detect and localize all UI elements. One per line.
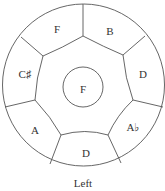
note-label-bottom: D: [82, 147, 90, 159]
spoke-bottom-left: [50, 135, 61, 164]
note-label-bottom-right: A♭: [126, 121, 139, 133]
spoke-top-left: [21, 37, 43, 56]
center-note-label: F: [80, 83, 86, 95]
spoke-right: [133, 100, 163, 107]
note-label-top-left: F: [54, 23, 60, 35]
note-label-right: D: [139, 68, 147, 80]
steelpan-note-diagram: F F B D A♭ D A C♯ Left: [0, 0, 165, 191]
spoke-bottom-right: [108, 135, 121, 163]
note-label-top-right: B: [106, 25, 113, 37]
note-label-bottom-left: A: [31, 124, 39, 136]
diagram-caption: Left: [74, 177, 92, 189]
spoke-left: [5, 100, 35, 107]
note-label-left: C♯: [19, 68, 32, 80]
spoke-top-right: [123, 36, 145, 55]
